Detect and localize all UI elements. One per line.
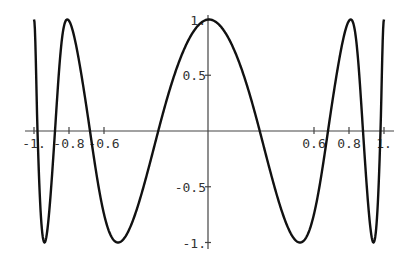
x-tick-label: -1. (22, 136, 45, 151)
y-tick-label: -1. (183, 236, 206, 251)
chart: -1.-0.8-0.60.60.81. 1.0.5-0.5-1. (0, 0, 412, 265)
y-tick-label: 0.5 (183, 68, 206, 83)
x-tick-label: 1. (376, 136, 392, 151)
x-tick-label: -0.8 (53, 136, 84, 151)
y-tick-label: -0.5 (175, 180, 206, 195)
x-tick-label: 0.6 (302, 136, 325, 151)
axes (25, 15, 394, 249)
x-tick-label: 0.8 (337, 136, 360, 151)
